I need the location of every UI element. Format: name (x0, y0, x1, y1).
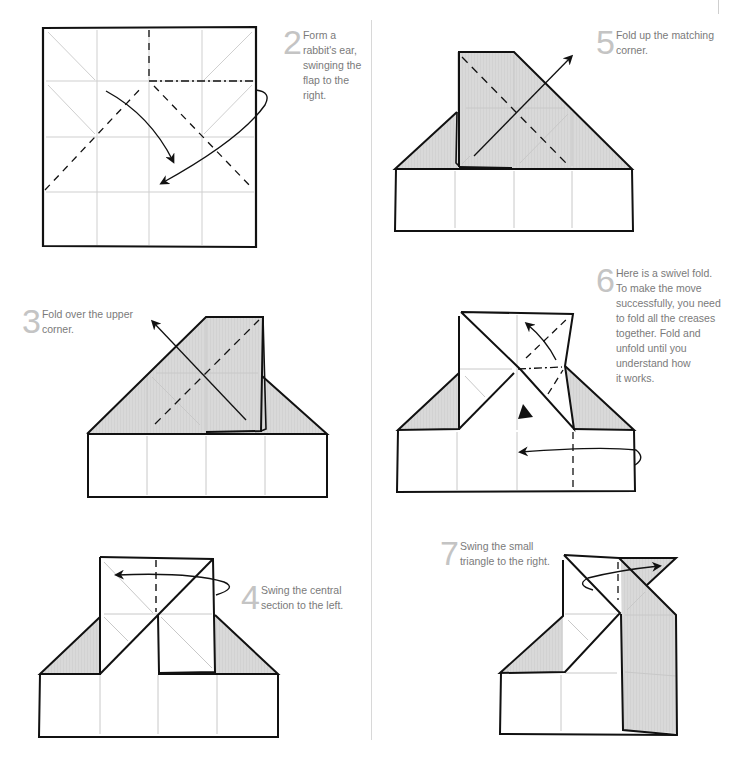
caption-line: Fold up the matching (616, 28, 714, 43)
push-arrowhead (518, 404, 533, 419)
caption-line: Swing the central (261, 583, 343, 598)
caption-line: rabbit's ear, (303, 43, 361, 58)
caption-line: together. Fold and (616, 326, 721, 341)
step-5-caption: 5 Fold up the matching corner. (596, 27, 714, 58)
step-3-caption: 3 Fold over the upper corner. (22, 306, 133, 337)
step-number: 5 (596, 27, 614, 57)
caption-line: Here is a swivel fold. (616, 266, 721, 281)
diagram-step-2 (43, 27, 267, 247)
caption-line: unfold until you (616, 341, 721, 356)
step-number: 6 (596, 265, 614, 295)
caption-line: swinging the (303, 58, 361, 73)
caption-line: Form a (303, 28, 361, 43)
diagram-step-3 (87, 317, 327, 497)
caption-line: corner. (42, 322, 133, 337)
caption-line: Fold over the upper (42, 307, 133, 322)
step-6-caption: 6 Here is a swivel fold. To make the mov… (596, 265, 721, 386)
step-number: 2 (283, 27, 301, 57)
diagram-step-5 (395, 52, 633, 231)
caption-line: to fold all the creases (616, 311, 721, 326)
caption-line: successfully, you need (616, 296, 721, 311)
step-number: 3 (22, 306, 40, 336)
caption-line: understand how (616, 356, 721, 371)
caption-line: corner. (616, 43, 714, 58)
step-number: 4 (241, 582, 259, 612)
step-7-caption: 7 Swing the small triangle to the right. (440, 538, 550, 569)
fold-arrow (527, 324, 556, 360)
caption-line: Swing the small (460, 539, 550, 554)
caption-line: section to the left. (261, 598, 343, 613)
caption-line: right. (303, 88, 361, 103)
caption-line: To make the move (616, 281, 721, 296)
diagram-step-7 (500, 555, 677, 735)
caption-line: flap to the (303, 73, 361, 88)
step-2-caption: 2 Form a rabbit's ear, swinging the flap… (283, 27, 361, 103)
caption-line: triangle to the right. (460, 554, 550, 569)
step-4-caption: 4 Swing the central section to the left. (241, 582, 343, 613)
step-number: 7 (440, 538, 458, 568)
caption-line: it works. (616, 371, 721, 386)
